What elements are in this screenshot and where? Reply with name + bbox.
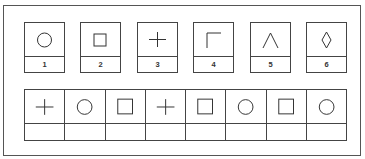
test-cell-5 — [186, 90, 226, 140]
test-cell-4 — [146, 90, 186, 140]
key-card-3: 3 — [137, 22, 178, 73]
square-icon — [81, 23, 120, 56]
answer-box[interactable] — [226, 123, 265, 140]
key-card-6: 6 — [306, 22, 347, 73]
square-icon — [106, 90, 145, 123]
key-card-5: 5 — [250, 22, 291, 73]
test-cell-6 — [226, 90, 266, 140]
test-cell-2 — [65, 90, 105, 140]
plus-icon — [138, 23, 177, 56]
answer-box[interactable] — [106, 123, 145, 140]
circle-icon — [25, 23, 64, 56]
test-grid — [24, 89, 347, 141]
key-card-1: 1 — [24, 22, 65, 73]
key-number: 6 — [307, 56, 346, 72]
circle-icon — [226, 90, 265, 123]
key-number: 4 — [194, 56, 233, 72]
answer-box[interactable] — [25, 123, 64, 140]
plus-icon — [25, 90, 64, 123]
test-cell-8 — [307, 90, 346, 140]
key-number: 2 — [81, 56, 120, 72]
key-card-2: 2 — [80, 22, 121, 73]
square-icon — [186, 90, 225, 123]
answer-box[interactable] — [146, 123, 185, 140]
answer-box[interactable] — [186, 123, 225, 140]
caret-icon — [251, 23, 290, 56]
diamond-icon — [307, 23, 346, 56]
square-icon — [267, 90, 306, 123]
answer-box[interactable] — [307, 123, 346, 140]
key-number: 3 — [138, 56, 177, 72]
test-cell-1 — [25, 90, 65, 140]
circle-icon — [307, 90, 346, 123]
corner-icon — [194, 23, 233, 56]
key-number: 5 — [251, 56, 290, 72]
key-number: 1 — [25, 56, 64, 72]
answer-box[interactable] — [267, 123, 306, 140]
answer-box[interactable] — [65, 123, 104, 140]
circle-icon — [65, 90, 104, 123]
test-cell-3 — [106, 90, 146, 140]
test-cell-7 — [267, 90, 307, 140]
key-card-4: 4 — [193, 22, 234, 73]
plus-icon — [146, 90, 185, 123]
